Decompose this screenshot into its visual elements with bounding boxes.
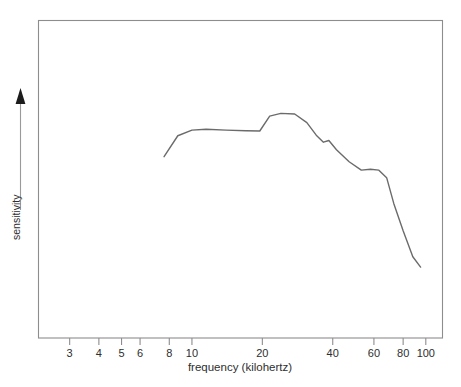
x-axis-title: frequency (kilohertz) (188, 361, 292, 373)
figure-background (0, 0, 461, 387)
x-tick-label: 100 (417, 347, 435, 359)
x-tick-label: 8 (166, 347, 172, 359)
x-tick-label: 3 (67, 347, 73, 359)
x-tick-label: 4 (96, 347, 102, 359)
x-tick-label: 5 (118, 347, 124, 359)
x-tick-label: 60 (368, 347, 380, 359)
x-tick-label: 20 (256, 347, 268, 359)
x-tick-label: 10 (186, 347, 198, 359)
x-tick-label: 6 (137, 347, 143, 359)
audiogram-figure: 345681020406080100 frequency (kilohertz)… (0, 0, 461, 387)
x-tick-label: 40 (327, 347, 339, 359)
x-tick-label: 80 (397, 347, 409, 359)
y-axis-title: sensitivity (10, 194, 22, 240)
